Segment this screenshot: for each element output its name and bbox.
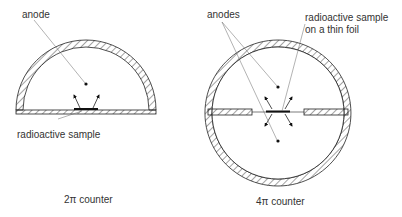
two-pi-counter: anode radioactive sample 2π counter xyxy=(16,9,156,205)
caption-2pi: 2π counter xyxy=(64,194,113,205)
particle-arrow xyxy=(93,95,99,108)
sample-label: radioactive sample xyxy=(17,129,101,140)
radioactive-sample xyxy=(74,108,98,110)
anodes-label: anodes xyxy=(207,9,240,20)
base-plate xyxy=(16,110,156,114)
four-pi-counter: anodes radioactive sample on a thin foil… xyxy=(205,9,389,207)
leader-line xyxy=(34,20,85,83)
caption-4pi: 4π counter xyxy=(256,196,305,207)
right-separator xyxy=(304,109,348,115)
anode-label: anode xyxy=(22,9,50,20)
left-separator xyxy=(208,109,252,115)
counter-diagram: anode radioactive sample 2π counter anod… xyxy=(0,0,402,217)
hemispherical-wall xyxy=(16,40,156,110)
sample-label-line1: radioactive sample xyxy=(305,12,389,23)
particle-arrow xyxy=(74,95,80,108)
sample-label-line2: on a thin foil xyxy=(305,24,359,35)
radioactive-sample xyxy=(266,111,290,113)
